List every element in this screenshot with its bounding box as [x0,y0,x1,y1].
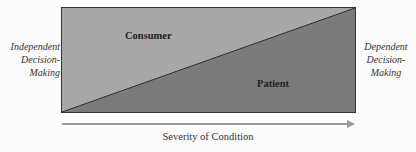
right-label-line-2: Decision- [358,53,414,66]
consumer-label: Consumer [125,30,172,41]
left-label-line-3: Making [4,66,60,79]
severity-of-condition-label: Severity of Condition [163,131,254,142]
left-label-line-2: Decision- [4,53,60,66]
severity-arrow-head-icon [347,120,355,128]
dependent-decision-making-label: Dependent Decision- Making [358,40,414,79]
patient-label: Patient [257,78,289,89]
independent-decision-making-label: Independent Decision- Making [4,40,60,79]
right-label-line-3: Making [358,66,414,79]
axis-label-container: Severity of Condition [0,131,416,142]
left-label-line-1: Independent [4,40,60,53]
consumer-patient-diagram [61,7,357,131]
right-label-line-1: Dependent [358,40,414,53]
